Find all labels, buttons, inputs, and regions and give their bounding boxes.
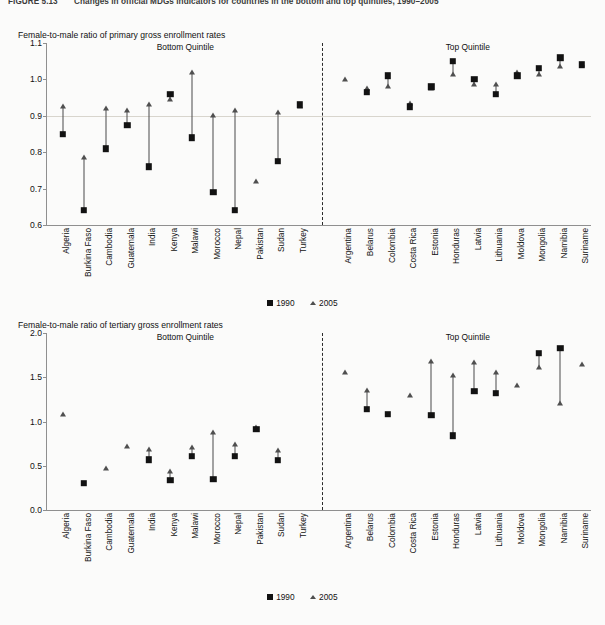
- group-label-top-quintile: Top Quintile: [446, 42, 490, 52]
- x-axis-category-label: Belarus: [365, 228, 375, 256]
- triangle-marker-icon: [310, 595, 316, 599]
- marker-2005: [232, 442, 238, 447]
- x-axis-category-label: Algeria: [61, 513, 71, 539]
- connector-line: [84, 158, 85, 211]
- marker-2005: [450, 373, 456, 378]
- marker-2005: [493, 369, 499, 374]
- marker-1990: [449, 432, 455, 438]
- square-marker-icon: [267, 594, 272, 599]
- y-axis-tick-mark: [43, 466, 47, 467]
- x-axis-category-label: Sudan: [276, 513, 286, 537]
- marker-2005: [167, 97, 173, 102]
- marker-2005: [471, 359, 477, 364]
- connector-line: [431, 361, 432, 415]
- x-axis-category-label: Mongolia: [537, 228, 547, 262]
- figure-number: FIGURE 5.13: [8, 0, 58, 6]
- marker-2005: [146, 447, 152, 452]
- y-axis-tick-mark: [43, 152, 47, 153]
- marker-2005: [493, 82, 499, 87]
- marker-1990: [210, 189, 216, 195]
- x-axis-category-label: Namibia: [559, 228, 569, 258]
- marker-1990: [275, 158, 281, 164]
- x-axis-category-label: Turkey: [298, 228, 308, 253]
- marker-2005: [232, 107, 238, 112]
- x-axis-category-label: Pakistan: [255, 513, 265, 545]
- triangle-marker-icon: [310, 301, 316, 305]
- group-label-bottom-quintile: Bottom Quintile: [157, 332, 214, 342]
- x-axis-category-label: Cambodia: [104, 513, 114, 551]
- figure-caption-text: Changes in official MDGs indicators for …: [74, 0, 438, 6]
- x-axis-category-label: Colombia: [387, 228, 397, 263]
- marker-1990: [145, 456, 151, 462]
- marker-1990: [81, 480, 87, 486]
- x-axis-category-label: Estonia: [430, 228, 440, 256]
- marker-1990: [536, 65, 542, 71]
- x-axis-category-label: Kenya: [169, 513, 179, 537]
- marker-2005: [557, 64, 563, 69]
- y-axis-tick-mark: [43, 333, 47, 334]
- x-axis-category-label: Burkina Faso: [83, 228, 93, 277]
- x-axis-category-label: Lithuania: [494, 228, 504, 262]
- marker-1990: [428, 83, 434, 89]
- marker-1990: [363, 89, 369, 95]
- x-axis-category-label: Namibia: [559, 513, 569, 543]
- marker-1990: [579, 62, 585, 68]
- marker-2005: [275, 109, 281, 114]
- x-axis-category-label: Suriname: [580, 228, 590, 264]
- marker-2005: [428, 358, 434, 363]
- x-axis-category-label: Lithuania: [494, 513, 504, 547]
- marker-1990: [232, 207, 238, 213]
- marker-1990: [210, 476, 216, 482]
- marker-1990: [471, 76, 477, 82]
- marker-2005: [579, 361, 585, 366]
- square-marker-icon: [267, 300, 272, 305]
- group-label-bottom-quintile: Bottom Quintile: [157, 42, 214, 52]
- marker-2005: [557, 401, 563, 406]
- marker-2005: [124, 443, 130, 448]
- y-axis-tick-mark: [43, 510, 47, 511]
- marker-1990: [514, 73, 520, 79]
- legend-label-2005: 2005: [319, 592, 337, 602]
- marker-1990: [385, 73, 391, 79]
- marker-2005: [189, 444, 195, 449]
- marker-1990: [124, 122, 130, 128]
- marker-1990: [102, 145, 108, 151]
- marker-1990: [275, 457, 281, 463]
- marker-1990: [296, 102, 302, 108]
- connector-line: [277, 112, 278, 161]
- x-axis-category-label: Cambodia: [104, 228, 114, 266]
- x-axis-category-label: Guatemala: [126, 228, 136, 269]
- x-axis-category-label: Nepal: [233, 228, 243, 250]
- x-axis-category-label: Guatemala: [126, 513, 136, 554]
- legend-label-1990: 1990: [276, 298, 294, 308]
- marker-2005: [210, 113, 216, 118]
- y-axis-tick-mark: [43, 189, 47, 190]
- x-axis-category-label: Sudan: [276, 228, 286, 252]
- chart-panel-primary-enrollment: Female-to-male ratio of primary gross en…: [0, 30, 605, 330]
- connector-line: [213, 432, 214, 479]
- y-axis-tick-mark: [43, 43, 47, 44]
- connector-line: [560, 348, 561, 404]
- legend-2: 1990 2005: [0, 592, 605, 602]
- x-axis-category-label: Honduras: [451, 228, 461, 264]
- marker-1990: [59, 131, 65, 137]
- chart-panel-tertiary-enrollment: Female-to-male ratio of tertiary gross e…: [0, 320, 605, 625]
- marker-1990: [493, 91, 499, 97]
- y-axis-tick-mark: [43, 377, 47, 378]
- marker-1990: [167, 91, 173, 97]
- x-axis-category-label: Honduras: [451, 513, 461, 549]
- chart-title-1: Female-to-male ratio of primary gross en…: [18, 30, 225, 40]
- marker-1990: [232, 453, 238, 459]
- marker-1990: [557, 345, 563, 351]
- quintile-divider: [322, 333, 323, 510]
- marker-1990: [189, 453, 195, 459]
- x-axis-category-label: Moldova: [516, 513, 526, 544]
- marker-2005: [124, 107, 130, 112]
- marker-1990: [81, 207, 87, 213]
- legend-item-2005: 2005: [310, 592, 338, 602]
- x-axis-category-label: Morocco: [212, 228, 222, 260]
- x-axis-category-label: Nepal: [233, 513, 243, 535]
- plot-area-1: 0.60.70.80.91.01.1Bottom QuintileTop Qui…: [46, 43, 591, 226]
- legend-item-1990: 1990: [267, 298, 294, 308]
- connector-line: [452, 375, 453, 435]
